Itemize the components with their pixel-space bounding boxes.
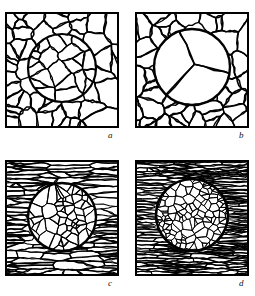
panel-c-graphic xyxy=(5,160,119,276)
panel-a xyxy=(5,12,119,128)
panel-b xyxy=(135,12,249,128)
panel-d xyxy=(135,160,249,276)
panel-label-b: b xyxy=(239,131,244,140)
grain-outline xyxy=(177,173,200,175)
panel-label-c: c xyxy=(108,279,112,288)
panel-c xyxy=(5,160,119,276)
panel-a-graphic xyxy=(5,12,119,128)
panel-label-a: a xyxy=(108,131,113,140)
panel-label-d: d xyxy=(239,279,244,288)
panel-d-graphic xyxy=(135,160,249,276)
panel-b-graphic xyxy=(135,12,249,128)
figure-root: a b c d xyxy=(0,0,255,296)
